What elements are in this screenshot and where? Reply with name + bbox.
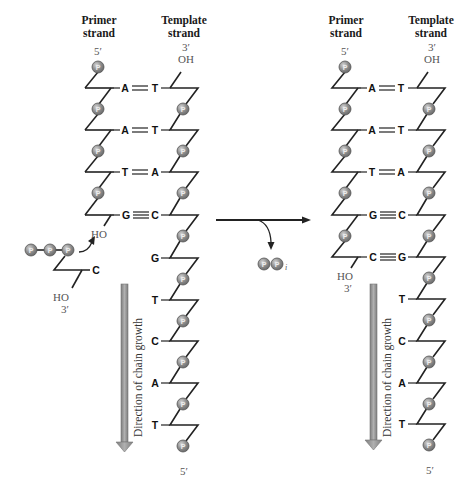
phosphate-icon: P: [92, 103, 104, 115]
svg-text:P: P: [275, 261, 280, 268]
svg-text:P: P: [181, 443, 186, 450]
phosphate-icon: P: [423, 187, 435, 199]
incoming-nucleotide: P P P C HO 3′: [25, 236, 100, 315]
phosphate-icon: P: [423, 103, 435, 115]
svg-text:A: A: [151, 377, 159, 389]
svg-text:P: P: [427, 148, 432, 155]
template-3prime-label: 3′: [428, 41, 436, 53]
phosphate-icon: P: [339, 61, 351, 73]
svg-text:G: G: [369, 209, 377, 221]
svg-text:P: P: [181, 190, 186, 197]
svg-text:P: P: [181, 401, 186, 408]
base-pair: C G: [369, 251, 406, 263]
pyrophosphate-subscript: i: [285, 263, 287, 272]
svg-text:P: P: [427, 359, 432, 366]
base-pair: T A: [369, 166, 405, 178]
phosphate-icon: P: [177, 315, 189, 327]
primer-5prime-label: 5′: [341, 45, 349, 57]
unpaired-template-bases: T C A T: [398, 293, 406, 430]
svg-text:P: P: [181, 233, 186, 240]
direction-of-growth-arrow-icon: [116, 284, 133, 452]
svg-text:P: P: [427, 190, 432, 197]
dna-replication-diagram: Primer strand Template strand 5′ 3′ OH: [0, 0, 474, 487]
svg-text:P: P: [96, 190, 101, 197]
svg-text:P: P: [29, 247, 34, 254]
svg-text:P: P: [181, 359, 186, 366]
phosphate-icon: P: [339, 187, 351, 199]
phosphate-icon: P: [423, 356, 435, 368]
phosphate-icon: P: [177, 187, 189, 199]
primer-strand-header-line1: Primer: [328, 14, 363, 26]
svg-text:T: T: [399, 418, 406, 430]
base-pair: T A: [122, 166, 159, 178]
svg-text:C: C: [398, 209, 406, 221]
svg-text:P: P: [96, 148, 101, 155]
phosphate-icon: P: [25, 244, 37, 256]
svg-text:A: A: [397, 166, 405, 178]
base-pairs: A T A T T A G C: [121, 82, 159, 221]
svg-text:A: A: [398, 377, 406, 389]
svg-text:P: P: [427, 401, 432, 408]
svg-text:P: P: [343, 64, 348, 71]
direction-of-growth-arrow-icon: [365, 284, 382, 450]
svg-text:P: P: [343, 106, 348, 113]
svg-text:G: G: [398, 251, 406, 263]
svg-text:P: P: [427, 106, 432, 113]
phosphate-icon: P: [177, 356, 189, 368]
phosphate-icon: P: [423, 314, 435, 326]
unpaired-template-bases: G T C A T: [151, 252, 159, 431]
left-panel: Primer strand Template strand 5′ 3′ OH: [25, 14, 207, 477]
base-pair: A T: [368, 124, 405, 136]
svg-text:3′: 3′: [61, 303, 69, 315]
svg-text:P: P: [96, 64, 101, 71]
base-pairs: A T A T T A G C C G: [368, 82, 406, 263]
phosphate-icon: P: [177, 103, 189, 115]
template-backbone: [408, 72, 445, 440]
phosphate-icon: P: [92, 187, 104, 199]
pyrophosphate-icon: P P i: [258, 258, 287, 272]
direction-of-growth-label: Direction of chain growth: [132, 318, 145, 437]
phosphate-icon: P: [423, 272, 435, 284]
base-pair: A T: [121, 82, 159, 94]
svg-text:C: C: [92, 264, 100, 276]
template-strand-header-line2: strand: [415, 27, 448, 39]
svg-text:P: P: [343, 148, 348, 155]
svg-text:HO: HO: [53, 291, 69, 303]
template-strand-header-line1: Template: [161, 14, 207, 27]
base-pair: A T: [121, 124, 159, 136]
svg-text:T: T: [369, 166, 376, 178]
svg-text:P: P: [262, 261, 267, 268]
svg-text:P: P: [181, 276, 186, 283]
svg-text:C: C: [398, 335, 406, 347]
base-pair: G C: [369, 209, 406, 221]
direction-of-growth-label: Direction of chain growth: [381, 318, 394, 437]
phosphate-icon: P: [177, 145, 189, 157]
template-5prime-label: 5′: [426, 464, 434, 476]
svg-text:P: P: [181, 106, 186, 113]
svg-text:C: C: [369, 251, 377, 263]
base-pair: A T: [368, 82, 405, 94]
phosphate-icon: P: [92, 145, 104, 157]
phosphate-icon: P: [177, 440, 189, 452]
right-panel: Primer strand Template strand 5′ 3′ OH P…: [328, 14, 453, 476]
phosphate-icon: P: [423, 145, 435, 157]
svg-text:C: C: [151, 209, 159, 221]
svg-text:G: G: [122, 209, 130, 221]
svg-text:T: T: [398, 124, 405, 136]
phosphate-icon: P: [423, 230, 435, 242]
phosphate-icon: P: [423, 398, 435, 410]
phosphate-icon: P: [92, 61, 104, 73]
primer-strand-header-line2: strand: [83, 27, 116, 39]
svg-text:P: P: [343, 233, 348, 240]
svg-text:C: C: [151, 335, 159, 347]
phosphate-icon: P: [177, 230, 189, 242]
phosphate-icon: P: [44, 244, 56, 256]
template-phosphates: P P P P P P P P P: [177, 103, 189, 452]
template-oh-label: OH: [178, 53, 194, 65]
svg-text:P: P: [343, 190, 348, 197]
template-strand-header-line2: strand: [168, 27, 201, 39]
svg-text:P: P: [96, 106, 101, 113]
primer-5prime-label: 5′: [94, 45, 102, 57]
phosphate-icon: P: [62, 244, 74, 256]
svg-text:P: P: [427, 317, 432, 324]
